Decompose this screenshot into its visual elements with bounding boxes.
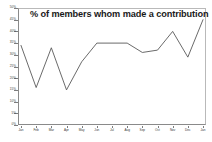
x-axis: JanFebMarAprMayJunJulAugSepOctNovDecJan [18,127,206,139]
chart-container: % of members whom made a contribution 0%… [0,0,212,142]
x-tick-label: Oct [150,129,166,133]
y-tick-label: 50% [2,6,16,9]
x-tick-label: Dec [180,129,196,133]
y-tick-label: 45% [2,18,16,21]
x-tick-label: Jan [195,129,211,133]
y-tick-label: 10% [2,100,16,103]
x-tick-label: Aug [119,129,135,133]
x-tick-label: Mar [43,129,59,133]
y-tick-label: 20% [2,77,16,80]
y-tick-label: 30% [2,53,16,56]
x-tick-label: Jul [104,129,120,133]
line-chart-plot [18,8,206,125]
y-tick-label: 25% [2,65,16,68]
y-tick-label: 5% [2,112,16,115]
x-tick-label: Jan [13,129,29,133]
data-series-line [21,20,203,90]
y-tick-label: 0% [2,123,16,126]
y-tick-label: 40% [2,30,16,33]
y-tick-label: 15% [2,88,16,91]
y-tick-label: 35% [2,41,16,44]
x-tick-label: Apr [59,129,75,133]
x-tick-label: Nov [165,129,181,133]
x-tick-label: Jun [89,129,105,133]
x-tick-label: May [74,129,90,133]
y-tick-mark [14,125,18,126]
x-tick-label: Feb [28,129,44,133]
x-tick-label: Sep [134,129,150,133]
